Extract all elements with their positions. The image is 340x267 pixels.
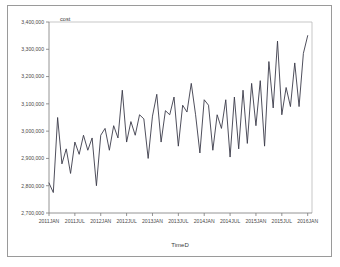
- x-tick-label: 2015JAN: [245, 218, 266, 224]
- y-tick-label: 3,400,000: [21, 19, 44, 25]
- x-tick-label: 2012JUL: [116, 218, 137, 224]
- x-tick-label: 2011JUL: [65, 218, 85, 224]
- y-tick-label: 3,000,000: [21, 128, 44, 134]
- x-tick-label: 2012JAN: [90, 218, 111, 224]
- x-tick-label: 2011JAN: [39, 218, 60, 224]
- x-axis-ticks: 2011JAN2011JUL2012JAN2012JUL2013JAN2013J…: [39, 213, 319, 224]
- x-tick-label: 2013JUL: [168, 218, 189, 224]
- x-axis-title: TimeD: [171, 242, 189, 248]
- y-axis-title: cost: [60, 16, 71, 22]
- y-tick-label: 2,700,000: [21, 210, 44, 216]
- x-tick-label: 2016JAN: [297, 218, 318, 224]
- y-axis-ticks: 3,400,0003,300,0003,200,0003,100,0003,00…: [21, 19, 49, 216]
- y-tick-label: 3,200,000: [21, 73, 44, 79]
- y-tick-label: 2,800,000: [21, 183, 44, 189]
- line-chart: 3,400,0003,300,0003,200,0003,100,0003,00…: [0, 0, 340, 267]
- screenshot-root: 3,400,0003,300,0003,200,0003,100,0003,00…: [0, 0, 340, 267]
- cost-series-line: [49, 36, 308, 193]
- x-tick-label: 2014JUL: [220, 218, 241, 224]
- chart-canvas: 3,400,0003,300,0003,200,0003,100,0003,00…: [0, 0, 340, 267]
- y-tick-label: 2,900,000: [21, 155, 44, 161]
- x-tick-label: 2015JUL: [272, 218, 293, 224]
- x-tick-label: 2013JAN: [142, 218, 163, 224]
- x-tick-label: 2014JAN: [194, 218, 215, 224]
- y-tick-label: 3,100,000: [21, 101, 44, 107]
- plot-frame: [49, 22, 312, 213]
- y-tick-label: 3,300,000: [21, 46, 44, 52]
